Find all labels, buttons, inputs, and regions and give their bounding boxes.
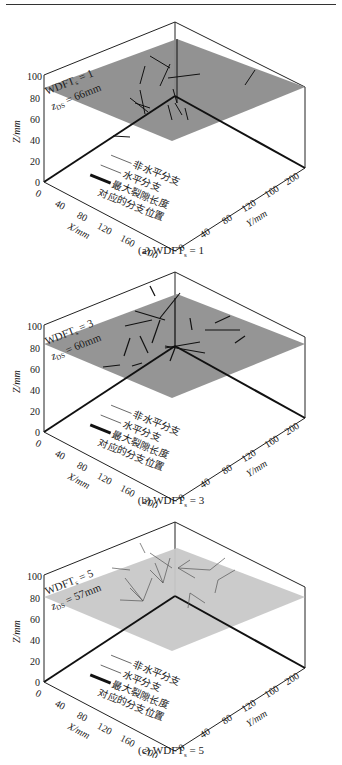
svg-text:0: 0: [34, 687, 44, 699]
legend: 非水平分支 水平分支 最大裂隙长度 对应的分支位置: [84, 395, 182, 474]
svg-text:40: 40: [30, 135, 40, 146]
svg-text:60: 60: [30, 364, 40, 375]
x-axis-label: X/mm: [65, 470, 92, 491]
svg-text:80: 80: [75, 709, 89, 723]
svg-text:120: 120: [96, 220, 114, 237]
svg-text:100: 100: [27, 321, 42, 332]
x-axis-label: X/mm: [65, 720, 92, 741]
z-axis-label: Z/mm: [11, 120, 22, 143]
plot-3d-c: 0 20 40 60 80 100 Z/mm 040 80120 160200 …: [0, 508, 342, 758]
svg-text:20: 20: [30, 156, 40, 167]
caption-a: (a) WDFTs = 1: [0, 244, 342, 259]
svg-text:80: 80: [75, 459, 89, 473]
caption-b: (b) WDFTs = 3: [0, 494, 342, 509]
caption-c: (c) WDFTs = 5: [0, 744, 342, 759]
svg-text:80: 80: [220, 212, 234, 227]
legend: 非水平分支 水平分支 最大裂隙长度 对应的分支位置: [84, 645, 182, 724]
svg-text:0: 0: [34, 187, 44, 199]
svg-text:80: 80: [220, 462, 234, 477]
z-axis-label: Z/mm: [11, 620, 22, 643]
svg-text:40: 40: [198, 226, 212, 241]
panel-c: 0 20 40 60 80 100 Z/mm 040 80120 160200 …: [0, 508, 342, 758]
svg-text:100: 100: [27, 571, 42, 582]
legend: 非水平分支 水平分支 最大裂隙长度 对应的分支位置: [84, 145, 182, 224]
svg-text:120: 120: [96, 470, 114, 487]
plot-3d-a: 0 20 40 60 80 100 Z/mm 040 80120 160200 …: [0, 8, 342, 258]
svg-text:80: 80: [30, 93, 40, 104]
svg-text:80: 80: [75, 209, 89, 223]
svg-text:60: 60: [30, 614, 40, 625]
svg-text:40: 40: [198, 476, 212, 491]
svg-text:40: 40: [198, 726, 212, 741]
svg-text:40: 40: [30, 635, 40, 646]
svg-text:40: 40: [30, 385, 40, 396]
svg-text:80: 80: [30, 343, 40, 354]
panel-a: 0 20 40 60 80 100 Z/mm 040 80120 160200 …: [0, 8, 342, 258]
svg-text:80: 80: [220, 712, 234, 727]
svg-text:40: 40: [53, 448, 67, 462]
svg-text:0: 0: [34, 437, 44, 449]
svg-text:20: 20: [30, 406, 40, 417]
x-axis-label: X/mm: [65, 220, 92, 241]
svg-text:40: 40: [53, 198, 67, 212]
svg-text:40: 40: [53, 698, 67, 712]
panel-b: 0 20 40 60 80 100 Z/mm 040 80120 160200 …: [0, 258, 342, 508]
svg-text:100: 100: [27, 71, 42, 82]
plot-3d-b: 0 20 40 60 80 100 Z/mm 040 80120 160200 …: [0, 258, 342, 508]
z-axis-label: Z/mm: [11, 370, 22, 393]
svg-text:120: 120: [96, 720, 114, 737]
svg-text:20: 20: [30, 656, 40, 667]
svg-text:60: 60: [30, 114, 40, 125]
svg-text:80: 80: [30, 593, 40, 604]
header-rule: [6, 4, 336, 5]
